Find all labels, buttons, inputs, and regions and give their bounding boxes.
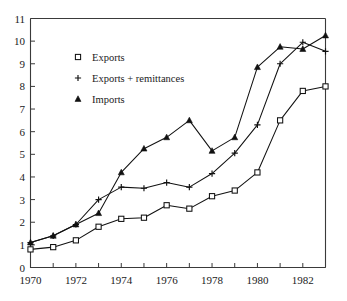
data-point — [51, 245, 56, 250]
y-tick-label: 11 — [14, 13, 25, 25]
chart-container: 01234567891011 1970197219741976197819801… — [0, 0, 347, 301]
data-point — [186, 117, 192, 123]
data-point — [141, 215, 146, 220]
legend-marker-filled-triangle — [75, 96, 81, 102]
series-line — [31, 35, 326, 242]
y-tick-label: 6 — [20, 126, 26, 138]
data-point — [141, 185, 147, 191]
series-2 — [27, 39, 328, 246]
x-axis: 1970197219741976197819801982 — [20, 263, 326, 286]
y-tick-label: 8 — [20, 80, 26, 92]
y-axis: 01234567891011 — [14, 13, 35, 274]
legend-label: Exports + remittances — [92, 73, 184, 84]
data-point — [119, 216, 124, 221]
x-tick-label: 1970 — [20, 274, 43, 286]
y-tick-label: 0 — [20, 262, 26, 274]
x-tick-label: 1978 — [201, 274, 224, 286]
data-point — [118, 184, 124, 190]
legend-label: Imports — [92, 94, 125, 105]
legend-marker-open-square — [75, 54, 80, 59]
data-point — [322, 48, 328, 54]
line-chart: 01234567891011 1970197219741976197819801… — [0, 0, 347, 301]
x-tick-label: 1972 — [65, 274, 87, 286]
data-point — [323, 84, 328, 89]
data-point — [323, 32, 329, 38]
y-tick-label: 2 — [20, 216, 26, 228]
y-tick-label: 5 — [20, 148, 26, 160]
data-point — [255, 170, 260, 175]
x-tick-label: 1980 — [246, 274, 269, 286]
data-point — [232, 134, 238, 140]
chart-legend: ExportsExports + remittancesImports — [75, 52, 184, 105]
data-point — [186, 184, 192, 190]
data-point — [300, 88, 305, 93]
data-point — [28, 247, 33, 252]
y-tick-label: 1 — [20, 239, 26, 251]
data-point — [209, 194, 214, 199]
legend-item-3: Imports — [75, 94, 125, 105]
data-point — [96, 210, 102, 216]
y-tick-label: 7 — [20, 103, 26, 115]
data-point — [164, 134, 170, 140]
data-point — [278, 118, 283, 123]
data-point — [187, 206, 192, 211]
x-tick-label: 1982 — [292, 274, 314, 286]
x-tick-label: 1974 — [110, 274, 133, 286]
data-point — [141, 145, 147, 151]
legend-marker-plus — [75, 75, 81, 81]
legend-label: Exports — [92, 52, 125, 63]
data-point — [277, 44, 283, 50]
series-3 — [28, 32, 329, 245]
y-tick-label: 9 — [20, 58, 26, 70]
data-series-group — [27, 32, 328, 252]
y-tick-label: 3 — [20, 194, 26, 206]
data-point — [164, 203, 169, 208]
y-tick-label: 4 — [20, 171, 26, 183]
legend-item-1: Exports — [75, 52, 124, 63]
plot-frame — [31, 19, 326, 268]
x-tick-label: 1976 — [156, 274, 179, 286]
data-point — [73, 238, 78, 243]
data-point — [96, 224, 101, 229]
data-point — [232, 188, 237, 193]
legend-item-2: Exports + remittances — [75, 73, 184, 84]
data-point — [164, 180, 170, 186]
y-tick-label: 10 — [14, 35, 26, 47]
